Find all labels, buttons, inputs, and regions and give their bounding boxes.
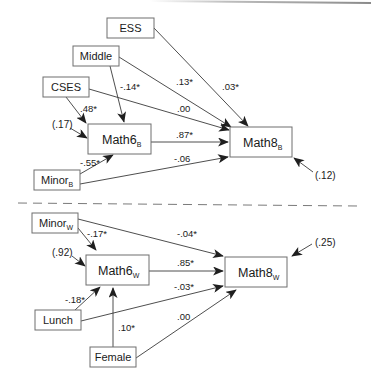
residual-math6b: (.17)	[52, 119, 73, 130]
residual-math8w: (.25)	[315, 237, 336, 248]
within-section: MinorW Math6W Lunch Female Math8W -.17* …	[32, 213, 336, 367]
path-diagram: ESS Middle CSES Math6B MinorB Math8B .48…	[0, 0, 371, 386]
node-math8w: Math8W	[225, 257, 287, 287]
svg-text:Female: Female	[95, 351, 132, 363]
arrow-ess-math8b	[154, 28, 248, 126]
node-ess: ESS	[107, 18, 154, 38]
coef-minorw-math6w: -.17*	[87, 228, 107, 239]
arrow-resid-math8b	[294, 158, 313, 172]
between-section: ESS Middle CSES Math6B MinorB Math8B .48…	[34, 18, 336, 190]
arrow-middle-math8b	[119, 57, 231, 127]
arrow-lunch-math8w	[81, 286, 223, 321]
svg-text:Middle: Middle	[80, 50, 112, 62]
coef-female-math8w: .00	[177, 311, 190, 322]
svg-text:Math8B: Math8B	[243, 136, 283, 151]
residual-math6w: (.92)	[52, 247, 73, 258]
svg-text:ESS: ESS	[119, 22, 141, 34]
arrow-resid-math6w	[72, 256, 85, 266]
residual-math8b: (.12)	[315, 170, 336, 181]
coef-female-math6w: .10*	[118, 322, 135, 333]
svg-text:Lunch: Lunch	[43, 314, 73, 326]
coef-math6b-math8b: .87*	[176, 129, 193, 140]
node-female: Female	[90, 347, 136, 367]
coef-middle-math6b: -.14*	[120, 81, 140, 92]
node-middle: Middle	[73, 46, 119, 66]
node-math6w: Math6W	[86, 255, 149, 285]
node-math6b: Math6B	[88, 124, 151, 154]
node-minorb: MinorB	[34, 170, 80, 190]
node-cses: CSES	[43, 77, 89, 97]
coef-cses-math6b: .48*	[80, 103, 97, 114]
section-divider	[18, 203, 357, 206]
coef-math6w-math8w: .85*	[177, 257, 194, 268]
coef-lunch-math8w: -.03*	[174, 281, 194, 292]
coef-ess-math8b: .03*	[222, 81, 239, 92]
coef-minorb-math8b: -.06	[174, 153, 190, 164]
svg-text:Math6B: Math6B	[102, 133, 142, 148]
coef-minorw-math8w: -.04*	[177, 228, 197, 239]
node-minorw: MinorW	[32, 213, 78, 233]
coef-cses-math8b: .00	[177, 103, 190, 114]
node-lunch: Lunch	[35, 310, 81, 330]
node-math8b: Math8B	[230, 127, 292, 157]
top-rule	[150, 1, 371, 3]
svg-text:CSES: CSES	[51, 81, 81, 93]
arrow-resid-math8w	[292, 244, 312, 256]
arrow-middle-math6b	[110, 66, 124, 122]
arrow-female-math8w	[136, 290, 236, 358]
coef-minorb-math6b: -.55*	[80, 157, 100, 168]
coef-lunch-math6w: -.18*	[65, 294, 85, 305]
coef-middle-math8b: .13*	[176, 76, 193, 87]
